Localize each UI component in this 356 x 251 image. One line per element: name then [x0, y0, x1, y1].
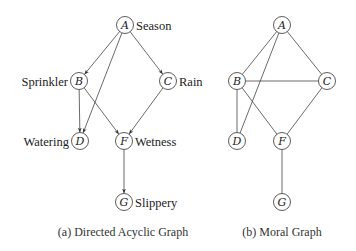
node-letter: C	[323, 75, 332, 88]
dag-edge-a-d	[83, 33, 122, 133]
moral-edge-a-d	[240, 33, 279, 133]
dag-node-f: FWetness	[116, 133, 177, 150]
moral-node-f: F	[274, 133, 291, 150]
node-letter: F	[119, 135, 128, 148]
moral-edge-c-f	[287, 88, 322, 134]
dag-edge-b-d	[79, 89, 80, 132]
node-letter: C	[164, 75, 173, 88]
node-name-label: Wetness	[135, 135, 176, 149]
node-name-label: Season	[136, 19, 172, 33]
dag-node-d: DWatering	[23, 133, 88, 150]
moral-node-g: G	[274, 194, 291, 211]
node-letter: F	[277, 135, 286, 148]
node-letter: A	[277, 19, 286, 32]
node-name-label: Watering	[23, 135, 69, 149]
moral-edge-a-c	[287, 32, 321, 75]
node-name-label: Rain	[179, 75, 203, 89]
node-name-label: Slippery	[135, 196, 178, 210]
node-letter: A	[120, 19, 129, 32]
moral-edge-b-f	[242, 88, 277, 134]
moral-node-d: D	[229, 133, 246, 150]
moral-caption: (b) Moral Graph	[242, 225, 321, 239]
moral-node-a: A	[274, 17, 291, 34]
dag-nodes: ASeasonBSprinklerCRainDWateringFWetnessG…	[21, 17, 203, 211]
dag-edges	[79, 32, 163, 193]
node-letter: D	[232, 135, 242, 148]
moral-node-b: B	[229, 73, 246, 90]
node-letter: G	[278, 196, 287, 209]
moral-edges	[237, 32, 322, 194]
figure-canvas: ASeasonBSprinklerCRainDWateringFWetnessG…	[0, 0, 356, 251]
dag-node-b: BSprinkler	[21, 73, 87, 90]
dag-node-a: ASeason	[117, 17, 173, 34]
node-letter: B	[232, 75, 241, 88]
dag-edge-b-f	[84, 88, 119, 134]
node-letter: G	[120, 196, 129, 209]
dag-node-c: CRain	[160, 73, 204, 90]
dag-edge-c-f	[129, 88, 163, 134]
moral-node-c: C	[319, 73, 336, 90]
node-letter: D	[75, 135, 85, 148]
dag-caption: (a) Directed Acyclic Graph	[58, 225, 188, 239]
dag-node-g: GSlippery	[116, 194, 179, 211]
node-letter: B	[74, 75, 83, 88]
dag-edge-a-c	[130, 32, 162, 74]
node-name-label: Sprinkler	[21, 75, 68, 89]
